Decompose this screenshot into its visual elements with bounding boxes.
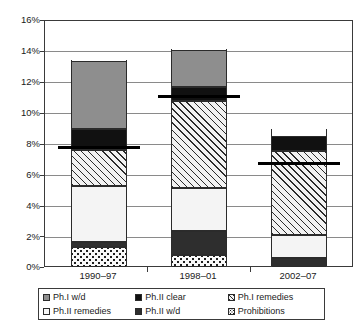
legend-item-prohibitions[interactable]: Prohibitions [228, 306, 320, 316]
bar-1998-01[interactable] [171, 49, 227, 266]
reference-line-1998-01 [158, 95, 240, 98]
bar-2002-07[interactable] [271, 129, 327, 266]
bar-segment-phII-wd [272, 258, 326, 267]
legend-item-phI-wd[interactable]: Ph.I w/d [43, 292, 135, 302]
legend-swatch-phII-wd-icon [135, 308, 142, 315]
legend-label: Ph.II remedies [53, 306, 111, 316]
y-tick-label: 12% [0, 77, 40, 86]
x-tick-label-2002-07: 2002–07 [243, 270, 353, 281]
legend-item-phI-remedies[interactable]: Ph.I remedies [228, 292, 320, 302]
y-tick-label: 2% [0, 232, 40, 241]
legend-swatch-phII-remedies-icon [43, 308, 50, 315]
bar-segment-phII-wd [172, 231, 226, 255]
bar-segment-phI-remedies [172, 101, 226, 188]
bar-1990-97[interactable] [71, 60, 127, 266]
legend-label: Ph.II w/d [145, 306, 180, 316]
legend-label: Prohibitions [238, 306, 285, 316]
legend-item-phII-clear[interactable]: Ph.II clear [135, 292, 227, 302]
legend-label: Ph.I remedies [238, 292, 294, 302]
y-tick-label: 10% [0, 108, 40, 117]
plot-area [44, 20, 353, 267]
legend: Ph.I w/d Ph.II clear Ph.I remedies Ph.II… [38, 288, 325, 320]
bar-segment-prohibitions [72, 247, 126, 267]
reference-line-2002-07 [258, 162, 340, 165]
y-tick-label: 14% [0, 46, 40, 55]
legend-swatch-phII-clear-icon [135, 294, 142, 301]
bar-segment-phII-remedies [72, 186, 126, 242]
legend-swatch-phI-remedies-icon [228, 294, 235, 301]
bar-segment-prohibitions [172, 255, 226, 267]
legend-label: Ph.II clear [145, 292, 186, 302]
legend-swatch-prohibitions-icon [228, 308, 235, 315]
bar-segment-phI-wd [72, 61, 126, 129]
stacked-bar-chart: 16% 14% 12% 10% 8% 6% 4% 2% 0% [0, 0, 363, 328]
y-tick-label: 8% [0, 139, 40, 148]
y-tick-label: 6% [0, 170, 40, 179]
bar-segment-phI-remedies [72, 150, 126, 186]
bar-segment-phII-wd [72, 242, 126, 247]
y-tick-mark [40, 267, 44, 268]
bar-segment-phII-clear [272, 136, 326, 151]
legend-item-phII-wd[interactable]: Ph.II w/d [135, 306, 227, 316]
reference-line-1990-97 [58, 146, 140, 149]
y-tick-label: 4% [0, 201, 40, 210]
legend-swatch-phI-wd-icon [43, 294, 50, 301]
legend-item-phII-remedies[interactable]: Ph.II remedies [43, 306, 135, 316]
x-tick-label-1998-01: 1998–01 [143, 270, 253, 281]
bar-segment-phII-remedies [272, 235, 326, 258]
y-tick-label: 0% [0, 262, 40, 271]
x-tick-label-1990-97: 1990–97 [43, 270, 153, 281]
legend-label: Ph.I w/d [53, 292, 86, 302]
y-tick-label: 16% [0, 15, 40, 24]
bar-segment-phII-remedies [172, 188, 226, 231]
bar-segment-phI-wd [172, 50, 226, 87]
